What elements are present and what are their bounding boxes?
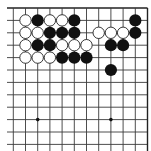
black-stone[interactable] (129, 27, 141, 39)
black-stone[interactable] (32, 39, 44, 51)
white-stone[interactable] (20, 40, 31, 51)
white-stone[interactable] (117, 27, 128, 38)
white-stone[interactable] (20, 52, 31, 63)
go-board[interactable] (0, 0, 151, 151)
black-stone[interactable] (105, 39, 117, 51)
black-stone[interactable] (80, 52, 92, 64)
white-stone[interactable] (32, 27, 43, 38)
white-stone[interactable] (44, 15, 55, 26)
white-stone[interactable] (81, 40, 92, 51)
white-stone[interactable] (44, 52, 55, 63)
black-stone[interactable] (56, 52, 68, 64)
black-stone[interactable] (44, 27, 56, 39)
white-stone[interactable] (69, 40, 80, 51)
white-stone[interactable] (93, 27, 104, 38)
black-stone[interactable] (68, 14, 80, 26)
white-stone[interactable] (32, 52, 43, 63)
white-stone[interactable] (56, 15, 67, 26)
black-stone[interactable] (68, 27, 80, 39)
black-stone[interactable] (68, 52, 80, 64)
black-stone[interactable] (32, 14, 44, 26)
white-stone[interactable] (20, 27, 31, 38)
white-stone[interactable] (56, 40, 67, 51)
black-stone[interactable] (117, 39, 129, 51)
black-stone[interactable] (44, 39, 56, 51)
star-point-icon (109, 118, 113, 122)
black-stone[interactable] (129, 14, 141, 26)
white-stone[interactable] (105, 27, 116, 38)
white-stone[interactable] (20, 15, 31, 26)
black-stone[interactable] (105, 64, 117, 76)
star-point-icon (36, 118, 40, 122)
black-stone[interactable] (56, 27, 68, 39)
